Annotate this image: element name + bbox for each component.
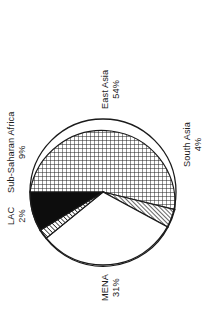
pie-label-lac-name: LAC bbox=[6, 207, 16, 225]
pie-label-east-asia: East Asia 54% bbox=[100, 70, 122, 109]
pie-label-lac: LAC 2% bbox=[6, 207, 28, 225]
pie-label-sub-saharan-africa: Sub-Saharan Africa 9% bbox=[6, 112, 28, 193]
pie-label-sub-saharan-africa-percent: 9% bbox=[17, 112, 28, 193]
pie-label-south-asia-name: South Asia bbox=[182, 122, 192, 167]
pie-label-lac-percent: 2% bbox=[17, 207, 28, 225]
pie-label-south-asia: South Asia 4% bbox=[182, 122, 204, 167]
pie-label-east-asia-percent: 54% bbox=[111, 70, 122, 109]
pie-label-south-asia-percent: 4% bbox=[193, 122, 204, 167]
pie-label-mena: MENA 31% bbox=[100, 274, 122, 301]
pie-chart-figure: East Asia 54% South Asia 4% MENA 31% LAC… bbox=[0, 0, 207, 315]
pie-label-sub-saharan-africa-name: Sub-Saharan Africa bbox=[6, 112, 16, 193]
pie-label-east-asia-name: East Asia bbox=[100, 70, 110, 109]
pie-label-mena-name: MENA bbox=[100, 274, 110, 301]
pie-label-mena-percent: 31% bbox=[111, 274, 122, 301]
pie-chart-svg bbox=[30, 119, 176, 265]
pie-chart-plot-area bbox=[30, 119, 176, 265]
